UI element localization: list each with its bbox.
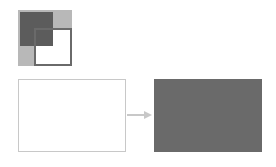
target-filled-box — [154, 79, 262, 152]
right-arrow-icon — [127, 111, 152, 119]
icon-frame-square — [34, 28, 72, 66]
source-empty-box — [18, 79, 126, 152]
overlapping-squares-icon — [18, 10, 72, 66]
